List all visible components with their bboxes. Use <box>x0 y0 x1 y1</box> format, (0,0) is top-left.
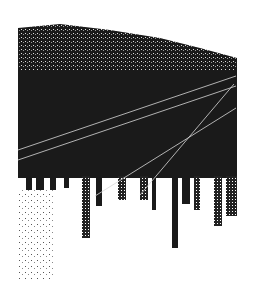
dark-sky <box>18 70 237 178</box>
skyline-artwork <box>0 0 255 305</box>
buildings <box>26 176 237 248</box>
skyline-illustration <box>0 0 255 305</box>
dust-texture <box>18 190 54 280</box>
